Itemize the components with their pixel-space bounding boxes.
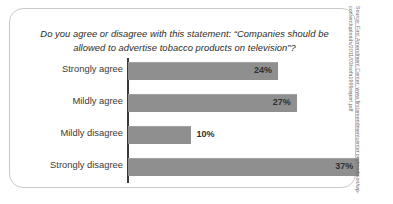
chart-title: Do you agree or disagree with this state… xyxy=(32,27,337,54)
category-label-strongly-agree: Strongly agree xyxy=(30,63,123,74)
bar-container-strongly-disagree: 37% xyxy=(128,158,359,175)
bar-strongly-disagree xyxy=(128,158,359,176)
bar-rows: Strongly agree 24% Mildly agree 27% Mild… xyxy=(30,57,357,185)
bar-container-mildly-disagree: 10% xyxy=(128,126,191,143)
bar-value-strongly-agree: 24% xyxy=(254,65,272,75)
chart-card: Do you agree or disagree with this state… xyxy=(9,8,356,188)
plot-area: Strongly agree 24% Mildly agree 27% Mild… xyxy=(30,57,357,185)
bar-container-mildly-agree: 27% xyxy=(128,94,297,111)
chart-screenshot: Do you agree or disagree with this state… xyxy=(0,0,393,204)
bar-value-mildly-disagree: 10% xyxy=(197,129,215,139)
bar-row: Mildly disagree 10% xyxy=(30,121,357,153)
category-label-mildly-disagree: Mildly disagree xyxy=(30,127,123,138)
source-credit: Source: First Amendment Center: www.firs… xyxy=(335,6,361,196)
bar-row: Mildly agree 27% xyxy=(30,89,357,121)
bar-mildly-disagree xyxy=(128,126,191,144)
category-label-mildly-agree: Mildly agree xyxy=(30,95,123,106)
bar-value-mildly-agree: 27% xyxy=(273,97,291,107)
bar-mildly-agree xyxy=(128,94,297,112)
category-label-strongly-disagree: Strongly disagree xyxy=(30,159,123,170)
bar-container-strongly-agree: 24% xyxy=(128,62,278,79)
bar-row: Strongly disagree 37% xyxy=(30,153,357,185)
bar-row: Strongly agree 24% xyxy=(30,57,357,89)
